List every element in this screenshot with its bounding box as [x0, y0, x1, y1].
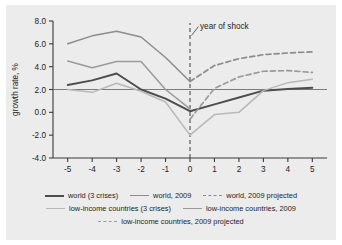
line-chart-svg: -4.0-2.00.02.04.06.08.0-5-4-3-2-1012345g…: [6, 5, 336, 185]
x-axis-tick-label: -4: [89, 165, 97, 174]
legend-swatch-solid-icon: [46, 208, 65, 209]
x-axis-tick-label: 5: [310, 165, 315, 174]
legend-swatch-solid-icon: [183, 208, 202, 209]
x-axis-tick-label: -1: [162, 165, 170, 174]
series-line: [190, 52, 312, 82]
y-axis-title: growth rate, %: [11, 63, 20, 116]
x-axis-tick-label: -3: [113, 165, 121, 174]
annotation-label: year of shock: [200, 22, 250, 31]
legend-item-label: low-income countries (3 crises): [69, 205, 171, 212]
legend-swatch-solid-icon: [45, 195, 64, 197]
x-axis-tick-label: -5: [64, 165, 72, 174]
x-axis-tick-label: 2: [237, 165, 242, 174]
legend-row: low-income countries, 2009 projected: [6, 215, 336, 228]
y-axis-tick-label: 4.0: [35, 63, 47, 72]
x-axis-tick-label: 1: [212, 165, 217, 174]
legend-item-label: world (3 crises): [68, 192, 118, 199]
legend-item: low-income countries (3 crises): [46, 205, 171, 212]
legend-item: world, 2009: [130, 192, 191, 199]
chart-plot-area: -4.0-2.00.02.04.06.08.0-5-4-3-2-1012345g…: [6, 5, 336, 185]
legend-item: low-income countries, 2009 projected: [98, 218, 243, 225]
figure-container: -4.0-2.00.02.04.06.08.0-5-4-3-2-1012345g…: [0, 0, 342, 245]
legend-swatch-solid-icon: [130, 195, 149, 196]
y-axis-tick-label: 6.0: [35, 40, 47, 49]
legend-item: world (3 crises): [45, 192, 118, 199]
legend-row: world (3 crises)world, 2009world, 2009 p…: [6, 186, 336, 202]
x-axis-tick-label: 0: [188, 165, 193, 174]
legend-item-label: low-income countries, 2009 projected: [121, 218, 243, 225]
y-axis-tick-label: 0.0: [35, 108, 47, 117]
series-line: [68, 31, 190, 81]
legend-item-label: world, 2009: [153, 192, 191, 199]
y-axis-tick-label: -4.0: [32, 154, 47, 163]
legend-item-label: world, 2009 projected: [226, 192, 297, 199]
legend-swatch-dashed-icon: [203, 195, 222, 196]
legend-item: low-income countries, 2009: [183, 205, 296, 212]
y-axis-tick-label: 2.0: [35, 86, 47, 95]
legend-swatch-dashed-icon: [98, 221, 117, 222]
y-axis-tick-label: 8.0: [35, 17, 47, 26]
legend-row: low-income countries (3 crises)low-incom…: [6, 202, 336, 215]
x-axis-tick-label: 4: [286, 165, 291, 174]
annotation-leader-line: [192, 26, 199, 35]
x-axis-tick-label: -2: [137, 165, 145, 174]
legend-item: world, 2009 projected: [203, 192, 297, 199]
chart-legend: world (3 crises)world, 2009world, 2009 p…: [6, 186, 336, 240]
x-axis-tick-label: 3: [261, 165, 266, 174]
legend-item-label: low-income countries, 2009: [206, 205, 296, 212]
y-axis-tick-label: -2.0: [32, 131, 47, 140]
